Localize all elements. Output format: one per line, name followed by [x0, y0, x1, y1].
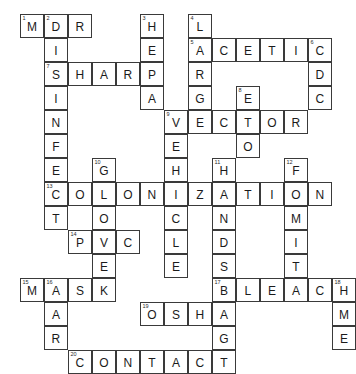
crossword-cell[interactable]: H [68, 62, 92, 86]
crossword-cell[interactable]: E [164, 254, 188, 278]
crossword-cell[interactable]: N [212, 206, 236, 230]
crossword-cell[interactable]: C [212, 38, 236, 62]
crossword-cell[interactable]: C [164, 206, 188, 230]
crossword-cell[interactable]: 10G [92, 158, 116, 182]
crossword-cell[interactable]: 16A [44, 278, 68, 302]
crossword-cell[interactable]: 19O [140, 302, 164, 326]
crossword-cell[interactable]: 1M [20, 14, 44, 38]
crossword-cell[interactable]: 15M [20, 278, 44, 302]
crossword-cell[interactable]: N [116, 350, 140, 374]
crossword-cell[interactable]: 11H [212, 158, 236, 182]
crossword-cell[interactable]: T [236, 182, 260, 206]
crossword-cell[interactable]: A [212, 182, 236, 206]
cell-letter: T [213, 357, 235, 369]
crossword-cell[interactable]: C [212, 110, 236, 134]
crossword-cell[interactable]: L [92, 182, 116, 206]
crossword-cell[interactable]: H [188, 302, 212, 326]
crossword-cell[interactable]: 18H [332, 278, 356, 302]
crossword-cell[interactable]: L [236, 278, 260, 302]
crossword-cell[interactable]: A [140, 86, 164, 110]
crossword-cell[interactable]: O [260, 110, 284, 134]
crossword-cell[interactable]: 3H [140, 14, 164, 38]
crossword-cell[interactable]: O [92, 350, 116, 374]
crossword-cell[interactable]: I [164, 182, 188, 206]
crossword-cell[interactable]: C [188, 350, 212, 374]
crossword-cell[interactable]: O [116, 182, 140, 206]
crossword-cell[interactable]: 20C [68, 350, 92, 374]
crossword-cell[interactable]: O [236, 134, 260, 158]
crossword-cell[interactable]: 5A [188, 38, 212, 62]
crossword-cell[interactable]: S [68, 278, 92, 302]
crossword-cell[interactable]: M [332, 302, 356, 326]
crossword-cell[interactable]: I [284, 38, 308, 62]
crossword-cell[interactable]: 4L [188, 14, 212, 38]
crossword-cell[interactable]: R [44, 326, 68, 350]
crossword-cell[interactable]: G [188, 86, 212, 110]
crossword-cell[interactable]: K [92, 278, 116, 302]
crossword-cell[interactable]: T [140, 350, 164, 374]
crossword-cell[interactable]: F [44, 134, 68, 158]
crossword-cell[interactable]: 17B [212, 278, 236, 302]
crossword-cell[interactable]: 8E [236, 86, 260, 110]
cell-letter: R [69, 21, 91, 33]
cell-letter: G [213, 333, 235, 345]
crossword-cell[interactable]: 9V [164, 110, 188, 134]
crossword-cell[interactable]: D [308, 62, 332, 86]
crossword-cell[interactable]: E [260, 278, 284, 302]
crossword-cell[interactable]: P [140, 62, 164, 86]
crossword-cell[interactable]: O [68, 182, 92, 206]
crossword-cell[interactable]: I [44, 86, 68, 110]
crossword-cell[interactable]: G [212, 326, 236, 350]
crossword-cell[interactable]: H [164, 158, 188, 182]
crossword-cell[interactable]: T [260, 38, 284, 62]
crossword-cell[interactable]: T [236, 110, 260, 134]
crossword-cell[interactable]: 13C [44, 182, 68, 206]
crossword-cell[interactable]: E [140, 38, 164, 62]
crossword-cell[interactable]: O [284, 182, 308, 206]
crossword-cell[interactable]: S [212, 254, 236, 278]
crossword-cell[interactable]: S [164, 302, 188, 326]
crossword-cell[interactable]: C [116, 230, 140, 254]
crossword-cell[interactable]: E [92, 254, 116, 278]
crossword-cell[interactable]: L [164, 230, 188, 254]
crossword-cell[interactable]: T [212, 350, 236, 374]
crossword-cell[interactable]: E [332, 326, 356, 350]
crossword-cell[interactable]: I [260, 182, 284, 206]
crossword-cell[interactable]: M [284, 206, 308, 230]
crossword-cell[interactable]: Z [188, 182, 212, 206]
crossword-cell[interactable]: 6C [308, 38, 332, 62]
crossword-cell[interactable]: I [284, 230, 308, 254]
crossword-cell[interactable]: E [164, 134, 188, 158]
crossword-cell[interactable]: R [116, 62, 140, 86]
crossword-cell[interactable]: I [44, 38, 68, 62]
crossword-cell[interactable]: C [308, 278, 332, 302]
cell-letter: I [165, 189, 187, 201]
cell-letter: M [21, 21, 43, 33]
crossword-cell[interactable]: N [308, 182, 332, 206]
crossword-cell[interactable]: E [44, 158, 68, 182]
crossword-cell[interactable]: A [44, 302, 68, 326]
crossword-cell[interactable]: A [92, 62, 116, 86]
crossword-cell[interactable]: O [92, 206, 116, 230]
crossword-cell[interactable]: R [188, 62, 212, 86]
crossword-cell[interactable]: V [92, 230, 116, 254]
crossword-cell[interactable]: R [68, 14, 92, 38]
crossword-cell[interactable]: D [212, 230, 236, 254]
crossword-cell[interactable]: E [236, 38, 260, 62]
crossword-cell[interactable]: R [284, 110, 308, 134]
crossword-cell[interactable]: A [212, 302, 236, 326]
crossword-cell[interactable]: 12F [284, 158, 308, 182]
cell-letter: H [69, 69, 91, 81]
crossword-cell[interactable]: 7S [44, 62, 68, 86]
crossword-cell[interactable]: A [284, 278, 308, 302]
crossword-cell[interactable]: T [44, 206, 68, 230]
crossword-cell[interactable]: T [284, 254, 308, 278]
crossword-cell[interactable]: A [164, 350, 188, 374]
crossword-cell[interactable]: C [308, 86, 332, 110]
crossword-cell[interactable]: 14P [68, 230, 92, 254]
crossword-cell[interactable]: N [44, 110, 68, 134]
cell-letter: I [45, 45, 67, 57]
crossword-cell[interactable]: E [188, 110, 212, 134]
crossword-cell[interactable]: N [140, 182, 164, 206]
crossword-cell[interactable]: 2D [44, 14, 68, 38]
